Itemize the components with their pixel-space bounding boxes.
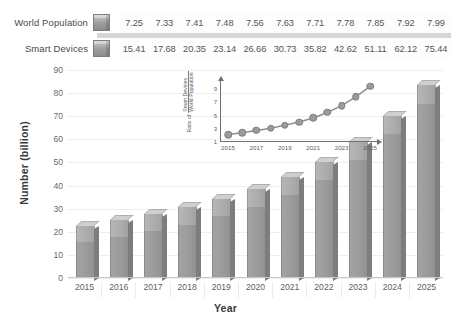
bar-segment-smart-devices [76, 242, 95, 278]
table-cell: 42.62 [330, 44, 360, 54]
stacked-bar [417, 85, 435, 278]
bar-segment-smart-devices [247, 207, 266, 278]
gridline [68, 278, 443, 279]
table-cell: 23.14 [210, 44, 240, 54]
table-cell: 7.78 [330, 18, 360, 28]
bar-segment-smart-devices [315, 180, 334, 278]
inset-x-tick-label: 2017 [250, 144, 264, 151]
stacked-bar [76, 226, 94, 278]
table-cell: 7.63 [270, 18, 300, 28]
bar-segment-world-population [247, 189, 266, 207]
inset-y-tick-label: 7 [214, 99, 217, 105]
y-axis-tick-label: 30 [53, 204, 63, 214]
x-axis-tick-label: 2015 [68, 282, 102, 298]
bar-slot [68, 70, 102, 278]
stacked-bar [315, 162, 333, 278]
bar-segment-smart-devices [144, 231, 163, 278]
inset-y-tick-label: 5 [214, 113, 217, 119]
inset-y-axis-title-prefix: Ratio of [186, 115, 192, 133]
inset-y-axis-denominator: World Population [190, 71, 195, 112]
table-cell: 7.92 [391, 18, 421, 28]
inset-y-tick-label: 9 [214, 86, 217, 92]
inset-data-point [324, 109, 332, 117]
bar-side-face [333, 162, 338, 281]
x-axis-tick-label: 2017 [136, 282, 170, 298]
inset-data-point [224, 131, 232, 139]
inset-plot-area: 97531 [220, 84, 378, 142]
stacked-bar [144, 214, 162, 278]
table-cell: 26.66 [240, 44, 270, 54]
main-bar-chart: Number (billion) 9080706050403020100 Rat… [0, 62, 451, 333]
bar-segment-smart-devices [383, 134, 402, 278]
x-axis-tick-label: 2019 [205, 282, 239, 298]
bar-slot [102, 70, 136, 278]
legend-row-smart-devices: Smart Devices 15.41 17.68 20.35 23.14 26… [0, 38, 451, 59]
legend-values-smart-devices: 15.41 17.68 20.35 23.14 26.66 30.73 35.8… [119, 38, 451, 59]
stacked-bar [178, 207, 196, 278]
table-cell: 35.82 [300, 44, 330, 54]
table-cell: 7.41 [179, 18, 209, 28]
table-cell: 7.85 [361, 18, 391, 28]
legend-label-smart-devices: Smart Devices [0, 43, 93, 54]
bar-side-face [128, 220, 133, 281]
table-cell: 7.71 [300, 18, 330, 28]
bar-segment-smart-devices [212, 216, 231, 278]
table-cell: 7.25 [119, 18, 149, 28]
x-axis-tick-label: 2016 [102, 282, 136, 298]
inset-y-tick-label: 3 [214, 126, 217, 132]
x-axis-line [68, 277, 443, 278]
bar-segment-smart-devices [178, 225, 197, 278]
x-axis-tick-label: 2024 [376, 282, 410, 298]
y-axis-tick-label: 0 [58, 273, 63, 283]
y-axis-tick-label: 50 [53, 157, 63, 167]
table-cell: 75.44 [421, 44, 451, 54]
y-axis-tick-label: 20 [53, 227, 63, 237]
bar-side-face [401, 116, 406, 281]
bar-segment-smart-devices [349, 160, 368, 278]
bar-side-face [196, 207, 201, 281]
y-axis-tick-label: 60 [53, 134, 63, 144]
table-cell: 7.33 [149, 18, 179, 28]
inset-y-axis-fraction: Smart Devices World Population [183, 71, 195, 112]
bar-side-face [94, 226, 99, 281]
table-cell: 7.56 [240, 18, 270, 28]
y-axis-tick-label: 70 [53, 111, 63, 121]
stacked-bar [281, 177, 299, 278]
bar-swatch-icon [93, 14, 110, 31]
y-axis-tick-label: 80 [53, 88, 63, 98]
bar-segment-world-population [315, 162, 334, 180]
bar-side-face [299, 178, 304, 281]
bar-side-face [435, 85, 440, 281]
y-axis-tick-label: 40 [53, 181, 63, 191]
legend-row-world-population: World Population 7.25 7.33 7.41 7.48 7.5… [0, 12, 451, 33]
bar-swatch-icon [93, 40, 110, 57]
x-axis-title: Year [0, 302, 451, 314]
stacked-bar [110, 220, 128, 278]
inset-x-ticks: 201520172019202120232025 [220, 144, 378, 156]
legend-values-world-population: 7.25 7.33 7.41 7.48 7.56 7.63 7.71 7.78 … [119, 12, 451, 33]
inset-data-point [253, 127, 261, 135]
table-cell: 15.41 [119, 44, 149, 54]
bar-segment-smart-devices [417, 104, 436, 278]
bar-segment-world-population [281, 177, 300, 195]
x-axis-tick-label: 2020 [239, 282, 273, 298]
inset-y-axis-title: Ratio of Smart Devices World Population [183, 71, 195, 133]
inset-data-point [238, 129, 246, 137]
inset-data-point [338, 102, 346, 110]
table-cell: 51.11 [361, 44, 391, 54]
table-cell: 20.35 [179, 44, 209, 54]
inset-data-point [295, 118, 303, 126]
table-cell: 7.99 [421, 18, 451, 28]
bar-segment-world-population [383, 116, 402, 134]
y-axis-title: Number (billion) [18, 103, 30, 223]
bar-segment-world-population [110, 220, 129, 237]
inset-y-tick-label: 1 [214, 139, 217, 145]
y-axis-tick-label: 10 [53, 250, 63, 260]
stacked-bar [247, 189, 265, 278]
bar-side-face [162, 214, 167, 281]
bar-side-face [230, 199, 235, 281]
legend-data-table: World Population 7.25 7.33 7.41 7.48 7.5… [0, 8, 451, 60]
inset-data-point [366, 83, 374, 91]
table-cell: 7.48 [210, 18, 240, 28]
table-cell: 17.68 [149, 44, 179, 54]
